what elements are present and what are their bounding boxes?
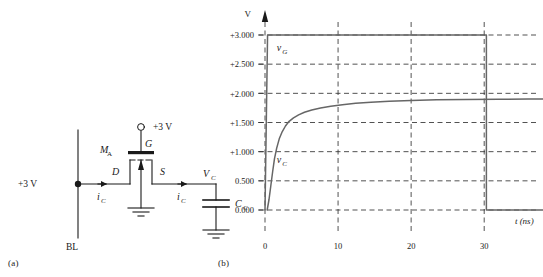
plot-x-tick-labels: 0102030 (263, 241, 489, 251)
y-tick-label: +1.500 (230, 118, 254, 128)
gate-terminal-label: G (145, 138, 152, 149)
transistor-name-label: M A (99, 144, 112, 158)
panel-a-caption: (a) (8, 258, 19, 268)
annotation-symbol: v (277, 42, 282, 53)
plot-gridlines (259, 22, 539, 234)
x-tick-label: 30 (480, 241, 489, 251)
annotation-symbol: v (277, 154, 282, 165)
y-tick-label: 0.500 (235, 176, 254, 186)
y-tick-label: +2.500 (230, 59, 254, 69)
y-tick-label: 0.000 (235, 205, 254, 215)
gate-supply-terminal (138, 124, 145, 131)
annotation-vC: vC (277, 154, 288, 168)
source-ground-symbol (128, 208, 154, 216)
svg-text:C: C (181, 197, 186, 205)
bitline-label: BL (66, 242, 78, 252)
current-arrow-source (178, 181, 187, 187)
svg-text:i: i (97, 191, 100, 202)
waveform-plot-panel: 0.0000.500+1.000+1.500+2.000+2.500+3.000… (271, 0, 543, 277)
svg-text:A: A (107, 150, 112, 158)
svg-text:C: C (211, 174, 216, 182)
cap-node-voltage-label: V C (203, 168, 216, 182)
circuit-schematic-panel: +3 V +3 V M A G D S i C i C V C C (0, 0, 271, 277)
substrate-arrow (138, 160, 144, 171)
gate-supply-label: +3 V (153, 122, 172, 132)
x-tick-label: 20 (407, 241, 416, 251)
current-arrow-drain (98, 181, 107, 187)
circuit-svg: +3 V +3 V M A G D S i C i C V C C (0, 0, 271, 277)
annotation-vG: vG (277, 42, 288, 56)
current-label-source: i C (177, 191, 186, 205)
plot-annotations: vGvC (277, 42, 288, 168)
annotation-subscript: G (282, 48, 287, 56)
svg-text:i: i (177, 191, 180, 202)
node-voltage-label: +3 V (18, 179, 37, 189)
waveform-svg: 0.0000.500+1.000+1.500+2.000+2.500+3.000… (271, 0, 543, 277)
y-tick-label: +2.000 (230, 89, 254, 99)
cap-ground-symbol (203, 230, 229, 238)
panel-b-caption: (b) (218, 258, 229, 268)
series-line-vC (267, 99, 543, 210)
x-tick-label: 0 (263, 241, 267, 251)
annotation-subscript: C (282, 160, 287, 168)
y-tick-label: +1.000 (230, 147, 254, 157)
current-label-drain: i C (97, 191, 106, 205)
svg-text:V: V (245, 9, 252, 19)
source-terminal-label: S (160, 166, 165, 177)
figure-container: +3 V +3 V M A G D S i C i C V C C (0, 0, 543, 277)
drain-terminal-label: D (111, 166, 120, 177)
y-tick-label: +3.000 (230, 30, 254, 40)
svg-text:V: V (203, 168, 211, 179)
capacitor-symbol (203, 200, 229, 207)
svg-text:C: C (101, 197, 106, 205)
x-axis-title: t (ns) (515, 216, 534, 226)
x-tick-label: 10 (334, 241, 343, 251)
